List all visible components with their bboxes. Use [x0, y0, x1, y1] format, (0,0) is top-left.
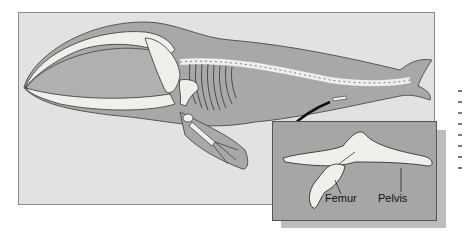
cropped-side-text [458, 90, 464, 230]
inset-panel-hind-limb: Femur Pelvis [272, 121, 437, 221]
pelvis-femur-illustration [273, 122, 438, 222]
pelvis-label: Pelvis [378, 192, 407, 204]
pelvis-bone [283, 132, 432, 166]
femur-label: Femur [325, 192, 357, 204]
